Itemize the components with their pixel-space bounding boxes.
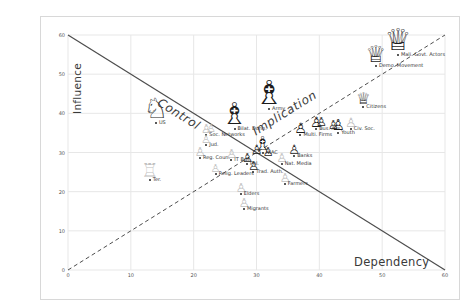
point-label: Nat. Media [285, 161, 312, 166]
point-label: Civ. Soc. [354, 126, 375, 131]
point-label: Multi. Firms [303, 132, 332, 137]
point-marker-dot [234, 128, 236, 130]
x-axis-tick-0: 0 [66, 273, 69, 278]
point-marker-dot [397, 54, 399, 56]
y-axis-tick-0: 0 [62, 268, 65, 273]
point-label: Farmers [288, 181, 308, 186]
point-marker-dot [284, 183, 286, 185]
point-label: Relig. Leaders [219, 171, 254, 176]
x-axis-tick-50: 50 [379, 273, 385, 278]
y-axis-tick-40: 40 [59, 111, 65, 116]
x-axis-tick-20: 20 [190, 273, 196, 278]
point-label: Elders [244, 191, 259, 196]
point-marker-dot [350, 128, 352, 130]
pawn-icon: ♙ [328, 119, 339, 131]
point-marker-dot [281, 163, 283, 165]
plot-area: ♘US♗Bilat. Donn.♗Army♕Mali. Govt. Actors… [41, 17, 459, 299]
y-axis-tick-50: 50 [59, 72, 65, 77]
x-axis-tick-10: 10 [128, 273, 134, 278]
y-axis-label: Influence [71, 63, 83, 114]
x-axis-tick-40: 40 [316, 273, 322, 278]
point-label: Migrants [247, 206, 269, 211]
point-marker-dot [149, 179, 151, 181]
point-label: Banks [297, 153, 312, 158]
point-label: US [159, 120, 166, 125]
point-marker-dot [215, 173, 217, 175]
y-axis-tick-20: 20 [59, 189, 65, 194]
point-label: Mali. Govt. Actors [401, 52, 445, 57]
pawn-icon: ♙ [316, 116, 327, 128]
point-marker-dot [240, 193, 242, 195]
stakeholder-chess-scatter-chart: ♘US♗Bilat. Donn.♗Army♕Mali. Govt. Actors… [40, 16, 460, 300]
y-axis-tick-60: 60 [59, 33, 65, 38]
point-label: Demo. Movement [379, 63, 423, 68]
point-label: Ter. [153, 177, 161, 182]
point-label: Citizens [366, 104, 386, 109]
point-marker-dot [205, 144, 207, 146]
x-axis-label: Dependency [354, 255, 429, 269]
pawn-icon: ♙ [262, 146, 273, 158]
x-axis-tick-60: 60 [442, 273, 448, 278]
point-label: Jud. [209, 142, 218, 147]
y-axis-tick-10: 10 [59, 228, 65, 233]
y-axis-tick-30: 30 [59, 150, 65, 155]
x-axis-tick-30: 30 [253, 273, 259, 278]
